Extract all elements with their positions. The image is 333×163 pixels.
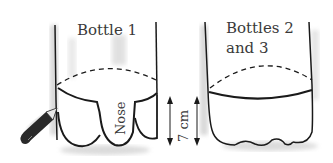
- bottles-2-3-label-line1: Bottles 2: [226, 19, 294, 37]
- dimension-label: 7 cm: [176, 110, 191, 142]
- nose-label: Nose: [113, 101, 128, 135]
- bottle-cutting-diagram: Bottle 1 Nose 7 cm Bottles 2 and 3: [0, 0, 333, 163]
- bottle-1: Bottle 1 Nose: [50, 21, 157, 155]
- bottles-2-3-label-line2: and 3: [226, 39, 269, 57]
- dimension-7cm: 7 cm: [167, 96, 200, 146]
- bottles-2-and-3: Bottles 2 and 3: [200, 19, 319, 151]
- bottle-1-label: Bottle 1: [77, 21, 137, 39]
